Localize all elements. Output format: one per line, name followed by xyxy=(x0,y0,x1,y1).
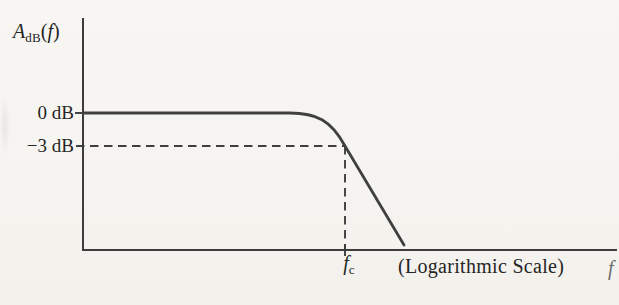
fc-subscript: c xyxy=(349,262,355,277)
fc-symbol: f xyxy=(343,252,349,274)
scan-artifact xyxy=(0,96,10,156)
x-axis-label: f xyxy=(608,258,614,279)
y-axis-label: AdB(f) xyxy=(13,21,60,44)
frequency-response-figure: AdB(f) 0 dB −3 dB fc (Logarithmic Scale)… xyxy=(0,0,619,305)
y-axis-label-symbol: A xyxy=(13,20,25,42)
y-axis-label-paren-close: ) xyxy=(53,20,60,42)
xtick-fc-label: fc xyxy=(328,253,370,276)
ytick-0db-label: 0 dB xyxy=(0,102,74,123)
y-axis-label-subscript: dB xyxy=(25,30,41,45)
response-curve xyxy=(83,113,404,245)
logarithmic-scale-note: (Logarithmic Scale) xyxy=(398,256,564,277)
ytick-minus3db-label: −3 dB xyxy=(0,135,74,156)
axes xyxy=(83,19,616,250)
